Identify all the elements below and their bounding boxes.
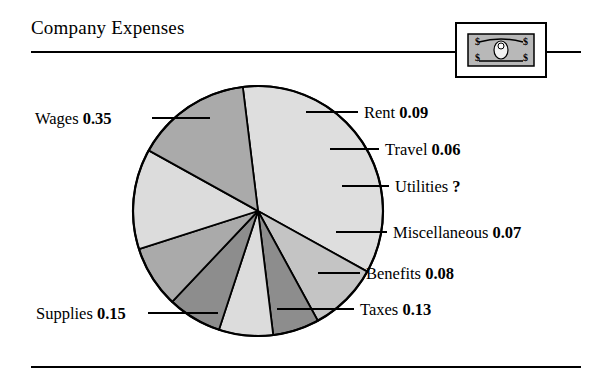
slice-label-name: Rent	[364, 103, 399, 122]
slice-label-value: ?	[452, 177, 460, 196]
slice-label-name: Utilities	[395, 177, 452, 196]
slice-label-value: 0.06	[432, 140, 461, 159]
slice-label-rent: Rent 0.09	[364, 103, 428, 122]
slice-label-supplies: Supplies 0.15	[36, 304, 126, 323]
slice-label-wages: Wages 0.35	[35, 109, 112, 128]
slice-label-value: 0.15	[97, 304, 126, 323]
slice-label-value: 0.13	[402, 300, 431, 319]
slice-label-name: Taxes	[360, 300, 402, 319]
slice-label-benefits: Benefits 0.08	[366, 264, 454, 283]
slice-label-miscellaneous: Miscellaneous 0.07	[393, 223, 521, 242]
slice-label-travel: Travel 0.06	[385, 140, 460, 159]
slice-label-name: Wages	[35, 109, 83, 128]
slice-label-name: Travel	[385, 140, 432, 159]
slice-label-name: Benefits	[366, 264, 425, 283]
slice-label-value: 0.35	[83, 109, 112, 128]
slice-label-name: Supplies	[36, 304, 97, 323]
slice-label-value: 0.07	[492, 223, 521, 242]
slice-label-value: 0.08	[425, 264, 454, 283]
slice-label-taxes: Taxes 0.13	[360, 300, 431, 319]
slice-label-value: 0.09	[399, 103, 428, 122]
pie-chart: Wages 0.35Rent 0.09Travel 0.06Utilities …	[0, 0, 612, 380]
slice-label-utilities: Utilities ?	[395, 177, 461, 196]
slice-label-name: Miscellaneous	[393, 223, 492, 242]
pie-chart-svg: Wages 0.35Rent 0.09Travel 0.06Utilities …	[0, 0, 612, 380]
